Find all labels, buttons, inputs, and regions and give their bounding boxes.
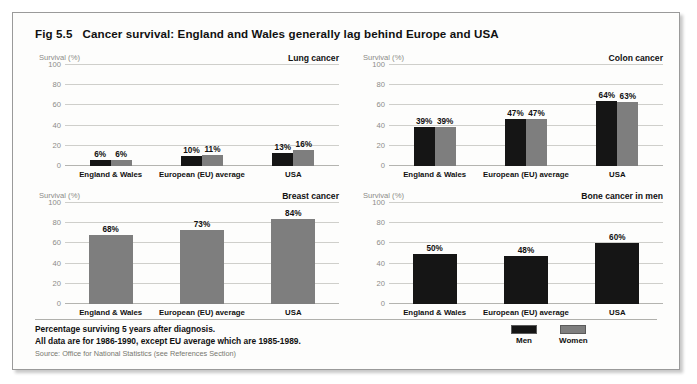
bar-group: 10%11%European (EU) average [156, 65, 247, 166]
y-axis-tick: 0 [57, 161, 61, 170]
y-axis-tick: 80 [377, 80, 385, 89]
legend-swatch-men [511, 325, 537, 334]
bar-lung-women-1[interactable]: 11% [202, 155, 223, 166]
x-axis-label: European (EU) average [483, 308, 569, 317]
bar-lung-men-1[interactable]: 10% [181, 156, 202, 166]
bar-bone-men-0[interactable]: 50% [413, 254, 457, 305]
bar-group: 68%England & Wales [65, 203, 156, 304]
bar-value-label: 63% [620, 92, 636, 101]
y-axis-tick: 40 [377, 120, 385, 129]
legend-item-women[interactable]: Women [559, 325, 588, 345]
y-axis-tick: 100 [372, 60, 385, 69]
bar-lung-men-0[interactable]: 6% [90, 160, 111, 166]
plot-area: 02040608010039%39%England & Wales47%47%E… [389, 65, 663, 166]
bar-group: 60%USA [572, 203, 663, 304]
y-axis-tick: 80 [377, 218, 385, 227]
bar-value-label: 73% [194, 220, 210, 229]
x-axis-label: England & Wales [403, 170, 466, 179]
plot-area: 0204060801006%6%England & Wales10%11%Eur… [65, 65, 339, 166]
bar-colon-men-1[interactable]: 47% [505, 119, 526, 166]
y-axis-tick: 20 [377, 140, 385, 149]
y-axis-tick: 60 [53, 238, 61, 247]
bar-colon-women-2[interactable]: 63% [617, 102, 638, 166]
bar-value-label: 50% [426, 244, 442, 253]
bars: 47%47% [480, 65, 571, 166]
bar-breast-women-2[interactable]: 84% [271, 219, 315, 304]
bars: 48% [480, 203, 571, 304]
y-axis-tick: 0 [381, 299, 385, 308]
bar-breast-women-1[interactable]: 73% [180, 230, 224, 304]
chart-panel-bone: Survival (%)Bone cancer in men0204060801… [363, 191, 663, 321]
source-note: Source: Office for National Statistics (… [35, 349, 455, 358]
x-axis-label: European (EU) average [159, 170, 245, 179]
x-axis-label: USA [285, 308, 301, 317]
bar-lung-men-2[interactable]: 13% [272, 153, 293, 166]
bar-value-label: 39% [437, 117, 453, 126]
bars: 50% [389, 203, 480, 304]
bars: 13%16% [248, 65, 339, 166]
chart-title-bone: Bone cancer in men [581, 191, 663, 201]
bar-bone-men-1[interactable]: 48% [504, 256, 548, 304]
footnote-line-1: Percentage surviving 5 years after diagn… [35, 324, 455, 336]
bar-group: 13%16%USA [248, 65, 339, 166]
bar-group: 48%European (EU) average [480, 203, 571, 304]
bar-group: 73%European (EU) average [156, 203, 247, 304]
y-axis-tick: 60 [377, 100, 385, 109]
bar-group: 50%England & Wales [389, 203, 480, 304]
bar-group: 64%63%USA [572, 65, 663, 166]
bar-breast-women-0[interactable]: 68% [89, 235, 133, 304]
bar-value-label: 16% [296, 140, 312, 149]
y-axis-tick: 60 [377, 238, 385, 247]
bars: 84% [248, 203, 339, 304]
x-axis-label: England & Wales [79, 170, 142, 179]
legend-label-women: Women [559, 336, 588, 345]
y-axis-tick: 0 [57, 299, 61, 308]
y-axis-tick: 100 [48, 60, 61, 69]
bar-group: 39%39%England & Wales [389, 65, 480, 166]
bar-value-label: 6% [115, 150, 127, 159]
y-axis-tick: 40 [53, 120, 61, 129]
bar-colon-women-0[interactable]: 39% [435, 127, 456, 166]
bars: 6%6% [65, 65, 156, 166]
chart-panel-breast: Survival (%)Breast cancer02040608010068%… [39, 191, 339, 321]
footnote-line-2: All data are for 1986-1990, except EU av… [35, 336, 455, 348]
y-axis-tick: 100 [48, 198, 61, 207]
chart-title-lung: Lung cancer [288, 53, 339, 63]
bar-value-label: 39% [416, 117, 432, 126]
bar-value-label: 10% [183, 146, 199, 155]
figure-number: Fig 5.5 [35, 27, 72, 40]
bar-value-label: 68% [102, 225, 118, 234]
x-axis-label: USA [609, 308, 625, 317]
bars: 39%39% [389, 65, 480, 166]
chart-title-colon: Colon cancer [609, 53, 663, 63]
bar-colon-men-0[interactable]: 39% [414, 127, 435, 166]
bar-bone-men-2[interactable]: 60% [595, 243, 639, 304]
y-axis-tick: 40 [377, 258, 385, 267]
x-axis-label: England & Wales [79, 308, 142, 317]
y-axis-tick: 20 [377, 278, 385, 287]
bars: 64%63% [572, 65, 663, 166]
legend-label-men: Men [511, 336, 537, 345]
figure-card: Fig 5.5Cancer survival: England and Wale… [12, 12, 680, 370]
plot-area: 02040608010050%England & Wales48%Europea… [389, 203, 663, 304]
bar-colon-women-1[interactable]: 47% [526, 119, 547, 166]
figure-title-text: Cancer survival: England and Wales gener… [82, 27, 498, 40]
bar-group: 84%USA [248, 203, 339, 304]
bar-value-label: 60% [609, 233, 625, 242]
y-axis-tick: 40 [53, 258, 61, 267]
legend-item-men[interactable]: Men [511, 325, 537, 345]
legend-swatch-women [560, 325, 586, 334]
bar-value-label: 11% [205, 145, 221, 154]
bar-lung-women-0[interactable]: 6% [111, 160, 132, 166]
y-axis-tick: 80 [53, 218, 61, 227]
bar-value-label: 47% [528, 109, 544, 118]
bar-lung-women-2[interactable]: 16% [293, 150, 314, 166]
x-axis-label: USA [285, 170, 301, 179]
x-axis-label: European (EU) average [483, 170, 569, 179]
y-axis-tick: 20 [53, 278, 61, 287]
bar-value-label: 84% [285, 209, 301, 218]
bar-value-label: 6% [94, 150, 106, 159]
x-axis-label: European (EU) average [159, 308, 245, 317]
bar-colon-men-2[interactable]: 64% [596, 101, 617, 166]
footer-divider [35, 319, 657, 320]
